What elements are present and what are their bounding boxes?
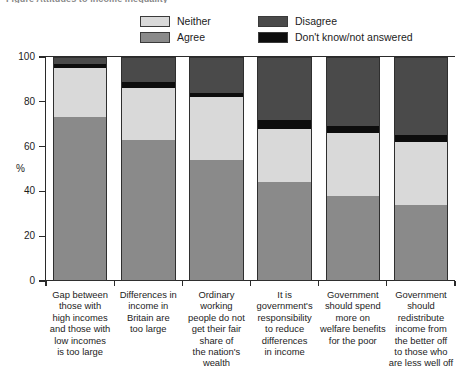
bar-slot (387, 57, 455, 281)
x-axis-tick (386, 281, 387, 286)
y-axis-tick (39, 101, 45, 102)
stacked-bar[interactable] (189, 57, 244, 281)
y-axis-title: % (16, 163, 25, 174)
bar-segment-disagree (326, 57, 381, 126)
bar-segment-agree (257, 182, 312, 281)
bar-segment-don-t-know-not-answered (326, 126, 381, 133)
stacked-bar[interactable] (394, 57, 449, 281)
figure-title: Figure Attitudes to income inequality (6, 0, 168, 3)
x-axis-label-4: It isgovernment'sresponsibilityto reduce… (251, 289, 319, 369)
legend-label-dont-know: Don't know/not answered (295, 31, 413, 43)
bar-segment-neither (189, 97, 244, 160)
legend-swatch-agree (140, 32, 170, 43)
bar-segment-don-t-know-not-answered (121, 82, 176, 89)
legend-label-neither: Neither (177, 15, 211, 27)
x-axis-labels: Gap betweenthose withhigh incomesand tho… (46, 289, 455, 369)
figure-container: Figure Attitudes to income inequality Ne… (0, 0, 465, 369)
legend-label-disagree: Disagree (295, 15, 337, 27)
bar-segment-neither (326, 133, 381, 196)
legend-item-neither: Neither (140, 15, 258, 27)
bar-segment-disagree (394, 57, 449, 135)
bar-segment-disagree (189, 57, 244, 93)
bar-segment-don-t-know-not-answered (257, 120, 312, 129)
bar-segment-disagree (53, 57, 108, 64)
bar-segment-agree (394, 205, 449, 281)
x-axis-tick (114, 281, 115, 286)
bar-segment-agree (326, 196, 381, 281)
y-axis-tick (39, 191, 45, 192)
x-axis-label-1: Gap betweenthose withhigh incomesand tho… (46, 289, 114, 369)
bar-slot (114, 57, 182, 281)
chart-legend: Neither Disagree Agree Don't know/not an… (140, 13, 440, 45)
bar-segment-neither (121, 88, 176, 140)
y-axis-label: 80 (0, 97, 35, 107)
bar-segment-neither (53, 68, 108, 117)
bar-slot (319, 57, 387, 281)
y-axis-label: 20 (0, 231, 35, 241)
bar-segment-disagree (257, 57, 312, 120)
bar-group (46, 57, 455, 281)
y-axis-tick (39, 280, 45, 281)
legend-label-agree: Agree (177, 31, 205, 43)
y-axis-tick (39, 56, 45, 57)
x-axis-tick (45, 281, 46, 286)
bar-segment-neither (394, 142, 449, 205)
x-axis-label-2: Differences inincome inBritain aretoo la… (114, 289, 182, 369)
x-axis-label-6: Governmentshouldredistributeincome fromt… (387, 289, 455, 369)
bar-segment-agree (53, 117, 108, 281)
bar-segment-agree (189, 160, 244, 281)
bar-slot (46, 57, 114, 281)
legend-item-disagree: Disagree (258, 15, 440, 27)
stacked-bar[interactable] (257, 57, 312, 281)
legend-swatch-disagree (258, 16, 288, 27)
y-axis-label: 40 (0, 186, 35, 196)
bar-slot (251, 57, 319, 281)
bar-segment-don-t-know-not-answered (394, 135, 449, 142)
y-axis-tick (39, 146, 45, 147)
y-axis-tick (39, 236, 45, 237)
legend-item-dont-know: Don't know/not answered (258, 31, 440, 43)
legend-item-agree: Agree (140, 31, 258, 43)
stacked-bar[interactable] (53, 57, 108, 281)
y-axis-label: 0 (0, 276, 35, 286)
x-axis-tick (318, 281, 319, 286)
y-axis-label: 60 (0, 142, 35, 152)
bar-slot (182, 57, 250, 281)
stacked-bar[interactable] (326, 57, 381, 281)
bar-segment-agree (121, 140, 176, 281)
bar-segment-disagree (121, 57, 176, 82)
bar-segment-neither (257, 129, 312, 183)
stacked-bar[interactable] (121, 57, 176, 281)
x-axis-tick (182, 281, 183, 286)
x-axis-tick (454, 281, 455, 286)
x-axis-tick (250, 281, 251, 286)
y-axis-label: 100 (0, 52, 35, 62)
x-axis-label-5: Governmentshould spendmore onwelfare ben… (319, 289, 387, 369)
legend-swatch-dont-know (258, 32, 288, 43)
legend-swatch-neither (140, 16, 170, 27)
x-axis-label-3: Ordinaryworkingpeople do notget their fa… (182, 289, 250, 369)
